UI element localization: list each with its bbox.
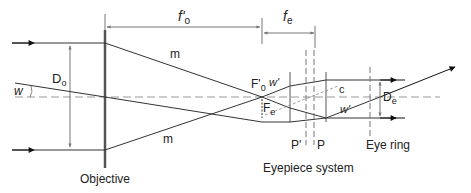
label-P: P (317, 138, 325, 152)
label-m-top: m (170, 47, 180, 61)
label-Fe: Fe (263, 101, 275, 117)
label-F0: F'0 (251, 77, 266, 93)
label-c: c (339, 83, 345, 95)
label-m-bottom: m (163, 132, 173, 146)
telescope-diagram: f'o fe Do w m m F'0 w' Fe c w' De P' P E… (0, 0, 471, 193)
label-eyepiece-system: Eyepiece system (263, 161, 354, 175)
label-eye-ring: Eye ring (366, 138, 410, 152)
ray-m-bottom (105, 97, 262, 150)
label-P-prime: P' (291, 138, 301, 152)
label-w-prime: w' (269, 76, 280, 88)
label-De: De (383, 90, 397, 106)
label-objective: Objective (80, 172, 130, 186)
label-w: w (14, 84, 24, 98)
label-fo: f'o (178, 8, 191, 26)
ray-m-top (105, 43, 262, 97)
label-Do: Do (52, 71, 66, 88)
label-w-prime-2: w' (340, 103, 351, 115)
label-fe: fe (283, 8, 293, 26)
